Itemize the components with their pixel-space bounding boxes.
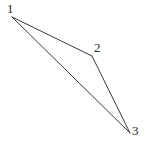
triangle-graphic bbox=[0, 0, 146, 145]
edge-line-2-3 bbox=[92, 56, 130, 133]
vertex-label-1: 1 bbox=[7, 2, 14, 15]
vertex-label-2: 2 bbox=[94, 41, 101, 54]
triangle-diagram-canvas: 1 2 3 bbox=[0, 0, 146, 145]
edge-line-1-3 bbox=[12, 17, 130, 133]
edge-line-1-2 bbox=[12, 17, 92, 56]
vertex-label-3: 3 bbox=[132, 124, 139, 137]
